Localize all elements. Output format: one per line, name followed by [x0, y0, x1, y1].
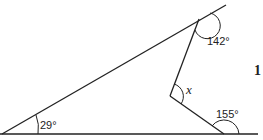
label-142: 142°	[207, 35, 230, 47]
label-155: 155°	[216, 108, 239, 120]
question-number: 1	[254, 63, 261, 78]
label-29: 29°	[40, 119, 57, 131]
label-x: x	[185, 82, 192, 97]
angle-arc-155	[212, 120, 239, 134]
angle-arc-29	[36, 115, 38, 134]
slanted-line	[2, 5, 226, 134]
geometry-diagram: 29° 142° x 155° 1	[0, 0, 263, 140]
angle-arc-x	[174, 84, 183, 104]
